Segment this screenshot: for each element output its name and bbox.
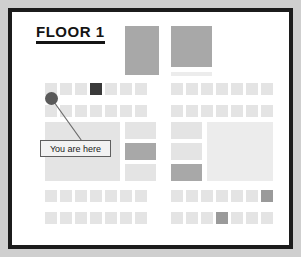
right-row1-cell3[interactable] [201, 83, 213, 95]
mid-col-upper[interactable] [125, 122, 156, 139]
you-are-here-marker-dot[interactable] [45, 92, 58, 105]
left-row3-cell3[interactable] [75, 190, 87, 202]
right-row3-cell1[interactable] [171, 190, 183, 202]
right-row3-cell5[interactable] [231, 190, 243, 202]
right-row2-cell6[interactable] [246, 105, 258, 117]
right-row3-cell3[interactable] [201, 190, 213, 202]
right-row4-cell5[interactable] [231, 212, 243, 224]
left-row2-cell4[interactable] [90, 105, 102, 117]
right-row2-cell5[interactable] [231, 105, 243, 117]
left-row4-cell6[interactable] [120, 212, 132, 224]
corridor-bar-right[interactable] [171, 72, 212, 76]
left-row3-cell2[interactable] [60, 190, 72, 202]
left-row2-cell1[interactable] [45, 105, 57, 117]
right-row1-cell6[interactable] [246, 83, 258, 95]
right-row2-cell7[interactable] [261, 105, 273, 117]
right-row3-cell2[interactable] [186, 190, 198, 202]
mid-col-lower[interactable] [125, 164, 156, 181]
left-row1-cell7[interactable] [135, 83, 147, 95]
right-row4-cell2[interactable] [186, 212, 198, 224]
anchor-block-left[interactable] [125, 26, 159, 75]
right-row1-cell1[interactable] [171, 83, 183, 95]
left-row2-cell7[interactable] [135, 105, 147, 117]
left-row4-cell3[interactable] [75, 212, 87, 224]
right-hall-block[interactable] [207, 122, 273, 181]
mid2-col-center[interactable] [171, 143, 202, 160]
right-row4-cell3[interactable] [201, 212, 213, 224]
map-frame: You are here FLOOR 1 [8, 8, 293, 249]
page-title: FLOOR 1 [36, 24, 105, 44]
right-row1-cell2[interactable] [186, 83, 198, 95]
mid2-col-lower[interactable] [171, 164, 202, 181]
left-row3-cell6[interactable] [120, 190, 132, 202]
right-row1-cell7[interactable] [261, 83, 273, 95]
right-row4-cell1[interactable] [171, 212, 183, 224]
left-row3-cell1[interactable] [45, 190, 57, 202]
you-are-here-label[interactable]: You are here [40, 140, 111, 157]
right-row3-cell6[interactable] [246, 190, 258, 202]
left-row3-cell7[interactable] [135, 190, 147, 202]
left-row1-cell5[interactable] [105, 83, 117, 95]
left-row2-cell3[interactable] [75, 105, 87, 117]
right-row2-cell3[interactable] [201, 105, 213, 117]
left-row4-cell5[interactable] [105, 212, 117, 224]
left-row4-cell4[interactable] [90, 212, 102, 224]
left-row1-cell6[interactable] [120, 83, 132, 95]
left-row3-cell5[interactable] [105, 190, 117, 202]
left-row4-cell1[interactable] [45, 212, 57, 224]
right-row2-cell1[interactable] [171, 105, 183, 117]
mid-col-center[interactable] [125, 143, 156, 160]
left-row4-cell7[interactable] [135, 212, 147, 224]
right-row4-cell6[interactable] [246, 212, 258, 224]
left-row1-cell2[interactable] [60, 83, 72, 95]
right-row4-cell4[interactable] [216, 212, 228, 224]
left-row2-cell6[interactable] [120, 105, 132, 117]
right-row4-cell7[interactable] [261, 212, 273, 224]
mid2-col-upper[interactable] [171, 122, 202, 139]
right-row2-cell2[interactable] [186, 105, 198, 117]
left-row2-cell5[interactable] [105, 105, 117, 117]
left-row1-cell3[interactable] [75, 83, 87, 95]
floor-plan-canvas[interactable]: You are here FLOOR 1 [12, 12, 289, 245]
right-row3-cell4[interactable] [216, 190, 228, 202]
left-row3-cell4[interactable] [90, 190, 102, 202]
right-row3-cell7[interactable] [261, 190, 273, 202]
right-row1-cell5[interactable] [231, 83, 243, 95]
left-row2-cell2[interactable] [60, 105, 72, 117]
right-row1-cell4[interactable] [216, 83, 228, 95]
anchor-block-right[interactable] [171, 26, 212, 67]
left-row4-cell2[interactable] [60, 212, 72, 224]
left-row1-cell4[interactable] [90, 83, 102, 95]
right-row2-cell4[interactable] [216, 105, 228, 117]
